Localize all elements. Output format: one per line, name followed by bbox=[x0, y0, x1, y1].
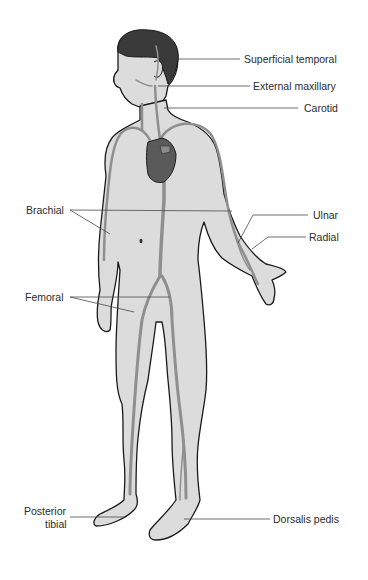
label-external-maxillary: External maxillary bbox=[253, 80, 336, 92]
label-ulnar: Ulnar bbox=[313, 209, 338, 221]
label-carotid: Carotid bbox=[304, 102, 338, 114]
label-dorsalis-pedis: Dorsalis pedis bbox=[273, 513, 339, 525]
label-radial: Radial bbox=[309, 231, 339, 243]
label-femoral: Femoral bbox=[25, 291, 64, 303]
navel bbox=[140, 239, 143, 243]
human-body-figure bbox=[94, 31, 286, 540]
arterial-pulse-diagram: Superficial temporal External maxillary … bbox=[0, 0, 368, 580]
label-brachial: Brachial bbox=[26, 204, 64, 216]
label-superficial-temporal: Superficial temporal bbox=[244, 53, 337, 65]
label-posterior-tibial-line2: tibial bbox=[45, 518, 67, 530]
label-posterior-tibial-line1: Posterior bbox=[24, 505, 66, 517]
